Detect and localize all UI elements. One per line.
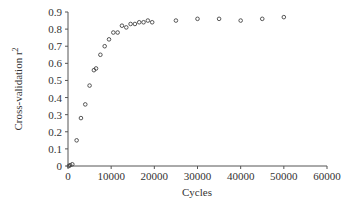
data-point — [124, 26, 128, 30]
data-point — [107, 38, 111, 42]
x-tick-label: 20000 — [141, 170, 169, 182]
data-point — [137, 20, 141, 24]
data-point — [79, 116, 83, 120]
y-tick-label: 0.8 — [48, 23, 62, 35]
x-tick-label: 10000 — [97, 170, 125, 182]
x-tick-label: 30000 — [184, 170, 212, 182]
data-point — [196, 17, 200, 21]
y-tick-label: 0.2 — [48, 126, 62, 138]
data-point — [83, 103, 87, 107]
data-point — [112, 31, 116, 35]
data-point — [133, 22, 137, 26]
y-tick-label: 0.3 — [48, 109, 62, 121]
y-tick-label: 0.5 — [48, 74, 62, 86]
y-tick-label: 0.1 — [48, 143, 62, 155]
data-point — [239, 19, 243, 23]
data-point — [217, 17, 221, 21]
data-points — [67, 15, 286, 167]
data-point — [103, 44, 107, 48]
data-point — [282, 15, 286, 19]
data-point — [75, 139, 79, 143]
data-point — [174, 19, 178, 23]
x-tick-label: 40000 — [227, 170, 255, 182]
y-tick-label: 0.4 — [48, 92, 62, 104]
data-point — [260, 17, 264, 21]
data-point — [120, 24, 124, 28]
y-tick-label: 0 — [57, 160, 63, 172]
data-point — [88, 84, 92, 88]
x-tick-label: 50000 — [270, 170, 298, 182]
x-axis-title: Cycles — [182, 186, 212, 198]
data-point — [150, 20, 154, 24]
y-axis-title-text: Cross-validation r — [12, 51, 24, 130]
data-point — [129, 22, 133, 26]
data-point — [142, 20, 146, 24]
y-tick-label: 0.9 — [48, 6, 62, 18]
y-tick-label: 0.7 — [48, 40, 62, 52]
x-axis: 0100002000030000400005000060000 — [65, 166, 341, 182]
data-point — [146, 19, 150, 23]
data-point — [99, 53, 103, 57]
y-axis-title: Cross-validation r2 — [11, 47, 24, 130]
y-tick-label: 0.6 — [48, 57, 62, 69]
x-tick-label: 0 — [65, 170, 71, 182]
y-axis: 00.10.20.30.40.50.60.70.80.9 — [48, 6, 68, 172]
data-point — [116, 31, 120, 35]
y-axis-title-superscript: 2 — [11, 47, 20, 51]
x-tick-label: 60000 — [313, 170, 341, 182]
scatter-chart: 00.10.20.30.40.50.60.70.80.9 01000020000… — [0, 0, 352, 209]
